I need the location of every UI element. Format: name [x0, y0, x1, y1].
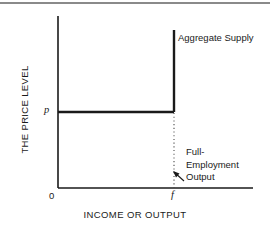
- aggregate-supply-label: Aggregate Supply: [178, 32, 254, 43]
- annotation-arrow-icon: [173, 171, 184, 181]
- x-axis-label: INCOME OR OUTPUT: [0, 209, 270, 220]
- full-employment-output-annotation: Full- Employment Output: [186, 146, 239, 184]
- annotation-line-1: Full-: [186, 146, 239, 159]
- origin-tick-label: 0: [49, 190, 54, 201]
- annotation-line-2: Employment: [186, 159, 239, 172]
- x-tick-label-f: f: [171, 189, 174, 200]
- y-tick-label-p: p: [44, 104, 49, 115]
- aggregate-supply-figure: THE PRICE LEVEL INCOME OR OUTPUT 0 f p A…: [0, 0, 270, 226]
- annotation-line-3: Output: [186, 171, 239, 184]
- y-axis-label: THE PRICE LEVEL: [19, 40, 30, 180]
